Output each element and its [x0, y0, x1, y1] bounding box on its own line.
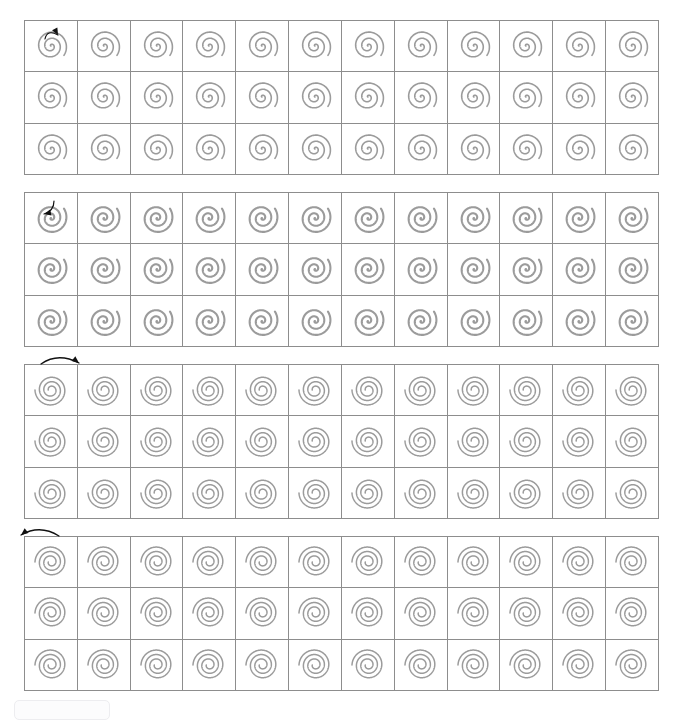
spiral-cell[interactable]	[289, 640, 342, 691]
spiral-cell[interactable]	[500, 537, 553, 588]
spiral-cell[interactable]	[236, 537, 289, 588]
spiral-cell[interactable]	[25, 72, 78, 123]
spiral-cell[interactable]	[553, 124, 606, 175]
spiral-cell[interactable]	[131, 365, 184, 416]
spiral-cell[interactable]	[448, 468, 501, 519]
spiral-cell[interactable]	[395, 193, 448, 244]
spiral-cell[interactable]	[500, 468, 553, 519]
spiral-cell[interactable]	[606, 21, 659, 72]
spiral-cell[interactable]	[342, 193, 395, 244]
spiral-cell[interactable]	[500, 72, 553, 123]
spiral-cell[interactable]	[78, 72, 131, 123]
spiral-cell[interactable]	[342, 244, 395, 295]
spiral-cell[interactable]	[25, 244, 78, 295]
spiral-cell[interactable]	[183, 365, 236, 416]
spiral-cell[interactable]	[448, 537, 501, 588]
spiral-cell[interactable]	[553, 244, 606, 295]
spiral-cell[interactable]	[553, 365, 606, 416]
spiral-cell[interactable]	[500, 193, 553, 244]
spiral-cell[interactable]	[500, 124, 553, 175]
spiral-cell[interactable]	[500, 640, 553, 691]
spiral-cell[interactable]	[236, 640, 289, 691]
spiral-cell[interactable]	[131, 588, 184, 639]
spiral-cell[interactable]	[553, 416, 606, 467]
spiral-cell[interactable]	[342, 124, 395, 175]
spiral-cell[interactable]	[395, 537, 448, 588]
spiral-cell[interactable]	[131, 124, 184, 175]
spiral-cell[interactable]	[342, 21, 395, 72]
spiral-cell[interactable]	[289, 588, 342, 639]
spiral-cell[interactable]	[25, 588, 78, 639]
spiral-cell[interactable]	[183, 468, 236, 519]
spiral-cell[interactable]	[448, 193, 501, 244]
spiral-cell[interactable]	[606, 296, 659, 347]
spiral-cell[interactable]	[131, 468, 184, 519]
spiral-cell[interactable]	[236, 124, 289, 175]
spiral-cell[interactable]	[342, 640, 395, 691]
spiral-cell[interactable]	[500, 296, 553, 347]
spiral-cell[interactable]	[606, 124, 659, 175]
spiral-cell[interactable]	[395, 21, 448, 72]
spiral-cell[interactable]	[395, 588, 448, 639]
spiral-cell[interactable]	[553, 537, 606, 588]
spiral-cell[interactable]	[395, 640, 448, 691]
spiral-cell[interactable]	[236, 468, 289, 519]
spiral-cell[interactable]	[289, 124, 342, 175]
spiral-cell[interactable]	[553, 21, 606, 72]
spiral-cell[interactable]	[342, 588, 395, 639]
spiral-cell[interactable]	[606, 537, 659, 588]
spiral-cell[interactable]	[236, 244, 289, 295]
spiral-cell[interactable]	[78, 124, 131, 175]
spiral-cell[interactable]	[183, 21, 236, 72]
spiral-cell[interactable]	[236, 365, 289, 416]
spiral-cell[interactable]	[183, 193, 236, 244]
spiral-cell[interactable]	[236, 72, 289, 123]
spiral-cell[interactable]	[606, 72, 659, 123]
spiral-cell[interactable]	[183, 124, 236, 175]
spiral-cell[interactable]	[606, 244, 659, 295]
spiral-cell[interactable]	[342, 537, 395, 588]
spiral-cell[interactable]	[342, 468, 395, 519]
spiral-cell[interactable]	[131, 193, 184, 244]
spiral-cell[interactable]	[78, 588, 131, 639]
spiral-cell[interactable]	[78, 640, 131, 691]
spiral-cell[interactable]	[25, 537, 78, 588]
spiral-cell[interactable]	[395, 124, 448, 175]
spiral-cell[interactable]	[395, 244, 448, 295]
spiral-cell[interactable]	[553, 588, 606, 639]
spiral-cell[interactable]	[606, 640, 659, 691]
spiral-cell[interactable]	[606, 468, 659, 519]
spiral-cell[interactable]	[342, 416, 395, 467]
spiral-cell[interactable]	[25, 468, 78, 519]
spiral-cell[interactable]	[395, 296, 448, 347]
spiral-cell[interactable]	[342, 72, 395, 123]
spiral-cell[interactable]	[131, 640, 184, 691]
spiral-cell[interactable]	[131, 537, 184, 588]
spiral-cell[interactable]	[553, 468, 606, 519]
spiral-cell[interactable]	[78, 537, 131, 588]
spiral-cell[interactable]	[25, 124, 78, 175]
spiral-cell[interactable]	[395, 365, 448, 416]
spiral-cell[interactable]	[183, 244, 236, 295]
spiral-cell[interactable]	[25, 365, 78, 416]
spiral-cell[interactable]	[448, 640, 501, 691]
spiral-cell[interactable]	[25, 21, 78, 72]
spiral-cell[interactable]	[395, 468, 448, 519]
spiral-cell[interactable]	[289, 21, 342, 72]
spiral-cell[interactable]	[183, 537, 236, 588]
spiral-cell[interactable]	[183, 588, 236, 639]
spiral-cell[interactable]	[236, 296, 289, 347]
spiral-cell[interactable]	[289, 416, 342, 467]
spiral-cell[interactable]	[553, 72, 606, 123]
spiral-cell[interactable]	[606, 365, 659, 416]
spiral-cell[interactable]	[183, 72, 236, 123]
spiral-cell[interactable]	[448, 296, 501, 347]
spiral-cell[interactable]	[500, 21, 553, 72]
spiral-cell[interactable]	[78, 193, 131, 244]
spiral-cell[interactable]	[78, 21, 131, 72]
spiral-cell[interactable]	[131, 72, 184, 123]
spiral-cell[interactable]	[289, 244, 342, 295]
spiral-cell[interactable]	[553, 193, 606, 244]
spiral-cell[interactable]	[236, 416, 289, 467]
spiral-cell[interactable]	[606, 588, 659, 639]
